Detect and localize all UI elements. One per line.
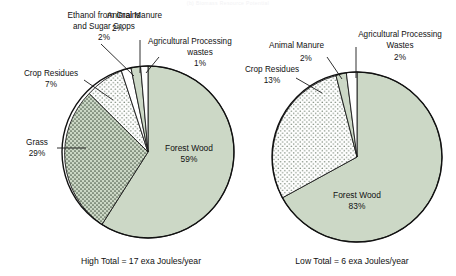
label-grass-pct-high: 29%: [29, 149, 45, 158]
label-ag-wastes-pct-low: 2%: [394, 53, 406, 62]
label-animal-manure-pct-low: 2%: [300, 54, 312, 63]
label-ethanol-line2-high: and Sugar Crops: [73, 22, 135, 31]
caption-high-total: High Total = 17 exa Joules/year: [81, 256, 201, 266]
pie-chart-low: Animal Manure 2% Agricultural Processing…: [245, 30, 442, 266]
label-forest-wood-low: Forest Wood: [333, 190, 381, 200]
label-ag-wastes-pct-high: 1%: [194, 59, 206, 68]
pie-chart-high: Ethanol from Grains and Sugar Crops 2% A…: [24, 11, 234, 266]
label-ethanol-pct-high: 2%: [98, 33, 110, 42]
label-crop-residues-pct-high: 7%: [45, 80, 57, 89]
label-forest-wood-high: Forest Wood: [165, 143, 213, 153]
caption-low-total: Low Total = 6 exa Joules/year: [295, 256, 408, 266]
label-ag-wastes-line1-low: Agricultural Processing: [358, 30, 442, 39]
label-forest-wood-pct-low: 83%: [349, 201, 366, 211]
biomass-pie-figure: Ethanol from Grains and Sugar Crops 2% A…: [0, 0, 456, 276]
label-crop-residues-pct-low: 13%: [264, 76, 280, 85]
figure-root: (b) Biomass Resource Potential: [0, 0, 456, 276]
label-animal-manure-pct-high: 2%: [112, 24, 124, 33]
label-ag-wastes-line1-high: Agricultural Processing: [148, 37, 232, 46]
label-ag-wastes-line2-high: wastes: [186, 48, 212, 57]
label-ag-wastes-line2-low: Wastes: [387, 41, 414, 50]
label-crop-residues-low: Crop Residues: [245, 65, 299, 74]
label-animal-manure-low: Animal Manure: [269, 41, 325, 50]
label-animal-manure-high: Animal Manure: [107, 11, 163, 20]
label-grass-high: Grass: [26, 138, 48, 147]
label-crop-residues-high: Crop Residues: [24, 69, 78, 78]
label-forest-wood-pct-high: 59%: [181, 154, 198, 164]
